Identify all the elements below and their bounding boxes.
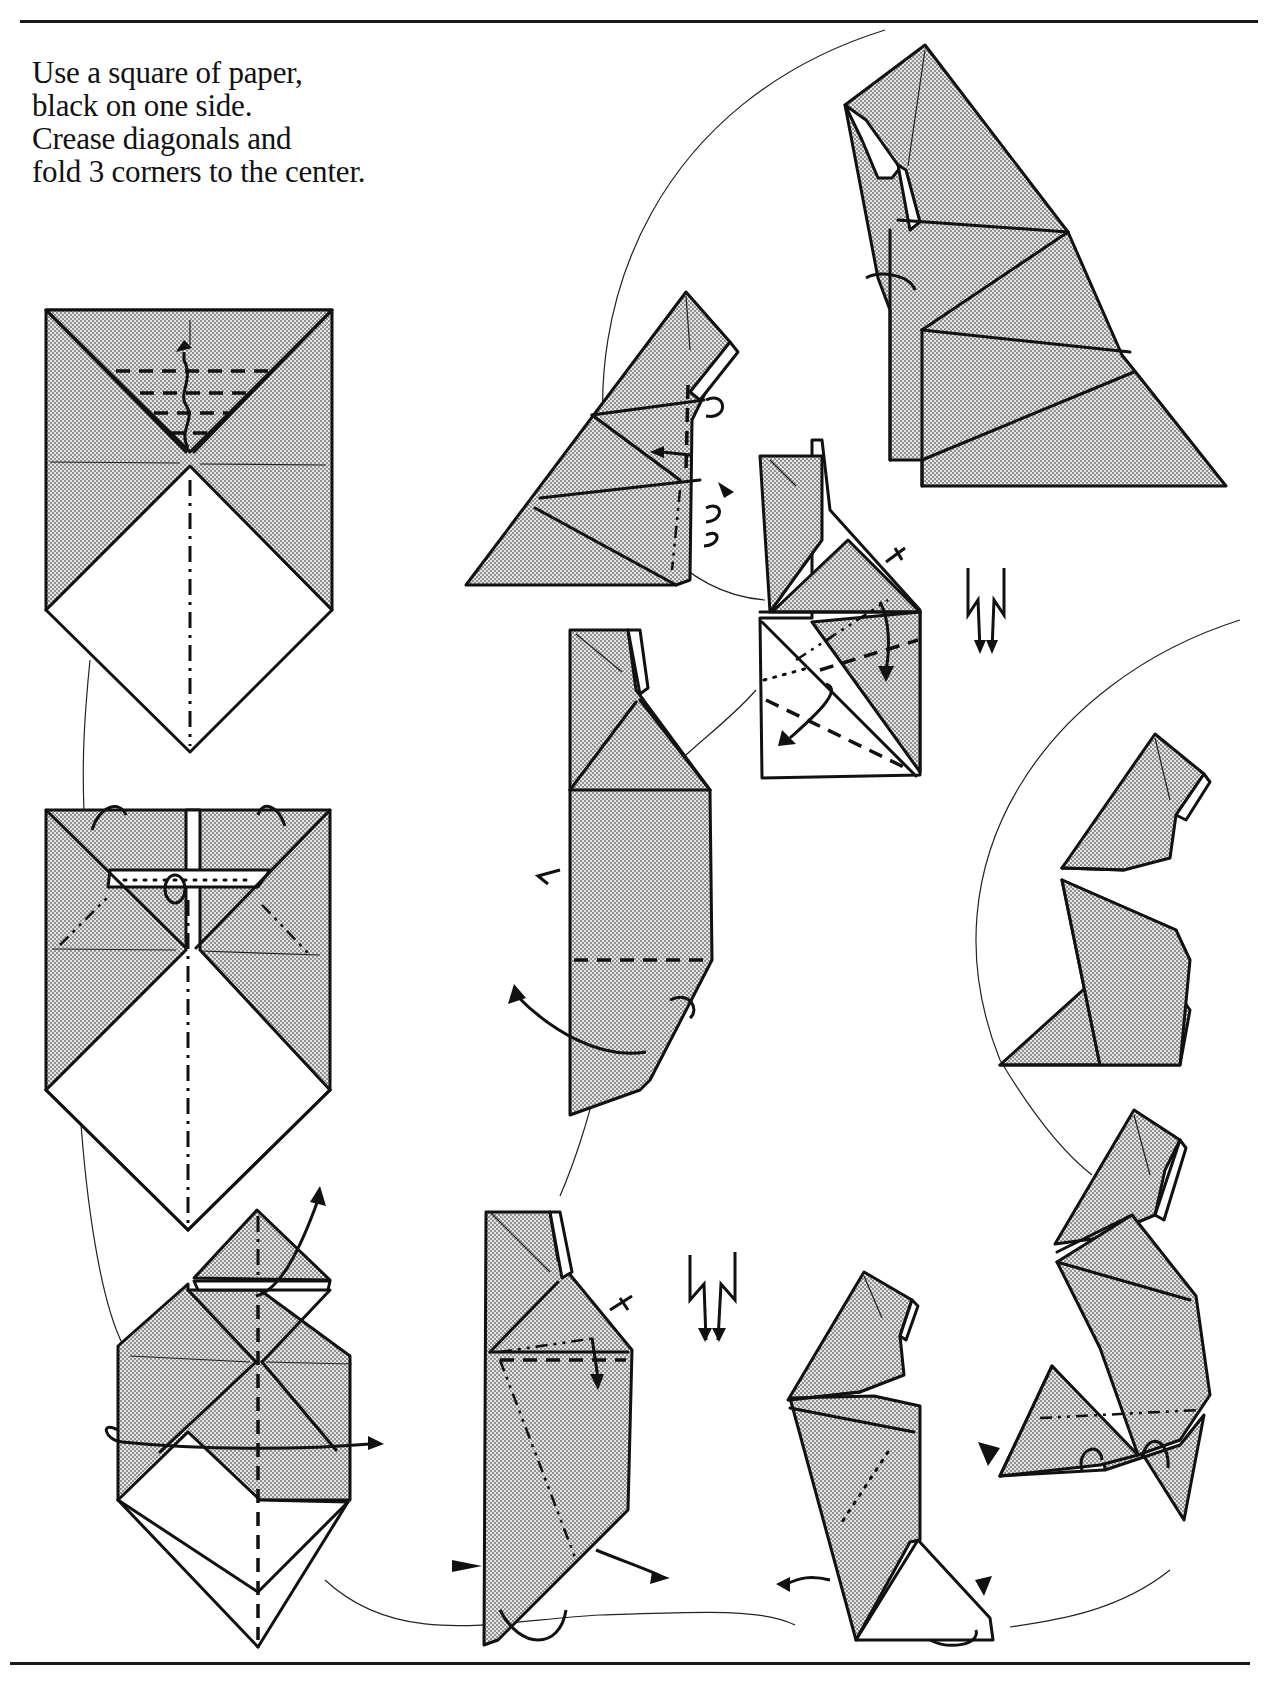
step-3-diagram bbox=[106, 1186, 384, 1647]
crimp-symbol-1 bbox=[690, 1252, 735, 1342]
crimp-symbol-2 bbox=[968, 568, 1004, 654]
step-6-diagram bbox=[760, 440, 920, 778]
step-8-diagram bbox=[845, 45, 1226, 486]
step-5-diagram bbox=[508, 630, 712, 1115]
step-1-diagram bbox=[46, 310, 332, 752]
step-4-diagram bbox=[452, 1212, 670, 1645]
diagram-canvas bbox=[0, 0, 1278, 1685]
step-11-diagram bbox=[776, 1272, 993, 1645]
step-10-diagram bbox=[978, 1110, 1210, 1520]
step-7-diagram bbox=[466, 292, 738, 585]
step-9-diagram bbox=[1000, 734, 1210, 1065]
step-2-diagram bbox=[46, 806, 330, 1230]
